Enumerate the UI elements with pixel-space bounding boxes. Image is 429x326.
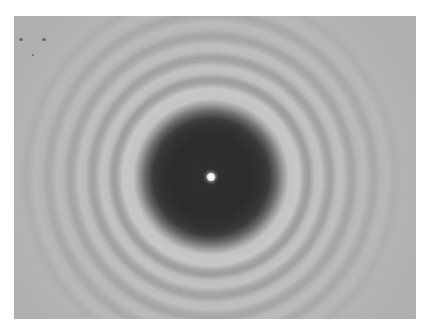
concentric-rings — [14, 16, 416, 319]
center-bright-spot — [207, 173, 215, 181]
dust-speck — [32, 54, 34, 56]
dust-speck — [19, 38, 23, 41]
dust-speck — [42, 38, 46, 41]
diffraction-photo: Grayscale photograph of concentric light… — [14, 16, 416, 319]
